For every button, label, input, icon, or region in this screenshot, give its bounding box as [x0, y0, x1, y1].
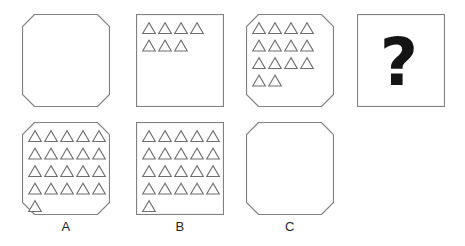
triangle-icon	[159, 131, 172, 142]
triangle-icon	[191, 23, 204, 34]
triangle-icon	[191, 131, 204, 142]
option-cell-b[interactable]	[136, 122, 224, 215]
triangle-icon	[77, 183, 90, 194]
triangle-icon	[207, 131, 220, 142]
triangle-icon	[175, 148, 188, 159]
triangle-icon	[253, 75, 266, 86]
triangle-icon	[61, 183, 74, 194]
triangle-icon	[143, 40, 156, 51]
triangle-icon	[253, 58, 266, 69]
option-label-c: C	[246, 220, 334, 234]
triangle-icon	[269, 40, 282, 51]
triangle-icon	[29, 131, 42, 142]
triangle-icon	[269, 75, 282, 86]
triangle-icon	[77, 166, 90, 177]
triangle-icon	[159, 23, 172, 34]
triangle-icon	[61, 166, 74, 177]
sequence-cell-question: ?	[357, 14, 445, 107]
option-label-a: A	[22, 220, 110, 234]
triangle-icon	[45, 131, 58, 142]
triangle-icon	[45, 183, 58, 194]
triangle-icon	[29, 166, 42, 177]
triangle-icon	[301, 40, 314, 51]
triangle-icon	[143, 23, 156, 34]
triangle-icon	[93, 131, 106, 142]
triangle-icon	[29, 183, 42, 194]
puzzle-board: ? A B C	[0, 0, 465, 246]
triangle-icon	[175, 166, 188, 177]
box-graphic	[246, 122, 334, 215]
triangle-icon	[207, 148, 220, 159]
option-label-b: B	[136, 220, 224, 234]
triangle-icon	[77, 148, 90, 159]
triangle-icon	[207, 166, 220, 177]
triangle-icon	[159, 183, 172, 194]
triangle-icon	[159, 40, 172, 51]
triangle-icon	[269, 23, 282, 34]
box-graphic: ?	[357, 14, 445, 107]
triangle-icon	[285, 40, 298, 51]
triangle-icon	[93, 166, 106, 177]
question-mark: ?	[380, 24, 418, 101]
triangle-icon	[207, 183, 220, 194]
triangle-icon	[175, 23, 188, 34]
triangle-icon	[143, 166, 156, 177]
option-cell-c[interactable]	[246, 122, 334, 215]
triangle-icon	[191, 166, 204, 177]
triangle-icon	[159, 166, 172, 177]
triangle-icon	[285, 58, 298, 69]
triangle-icon	[61, 131, 74, 142]
triangle-icon	[143, 183, 156, 194]
box-graphic	[136, 14, 224, 107]
triangle-icon	[253, 40, 266, 51]
sequence-cell-1	[22, 14, 110, 107]
triangle-icon	[143, 131, 156, 142]
triangle-icon	[61, 148, 74, 159]
triangle-icon	[143, 148, 156, 159]
triangle-icon	[175, 40, 188, 51]
triangle-icon	[269, 58, 282, 69]
triangle-icon	[175, 131, 188, 142]
triangle-icon	[45, 166, 58, 177]
triangle-icon	[301, 58, 314, 69]
triangle-icon	[93, 148, 106, 159]
triangle-icon	[77, 131, 90, 142]
box-graphic	[136, 122, 224, 215]
box-graphic	[246, 14, 334, 107]
option-cell-a[interactable]	[22, 122, 110, 215]
triangle-icon	[175, 183, 188, 194]
triangle-icon	[253, 23, 266, 34]
sequence-cell-2	[136, 14, 224, 107]
box-graphic	[22, 122, 110, 215]
octagon-outline	[23, 15, 110, 107]
triangle-icon	[301, 23, 314, 34]
triangle-icon	[159, 148, 172, 159]
triangle-icon	[191, 148, 204, 159]
octagon-outline	[247, 123, 334, 215]
triangle-icon	[191, 183, 204, 194]
triangle-icon	[29, 201, 42, 212]
triangle-icon	[285, 23, 298, 34]
triangle-icon	[93, 183, 106, 194]
triangle-icon	[143, 201, 156, 212]
triangle-icon	[29, 148, 42, 159]
sequence-cell-3	[246, 14, 334, 107]
box-graphic	[22, 14, 110, 107]
triangle-icon	[45, 148, 58, 159]
